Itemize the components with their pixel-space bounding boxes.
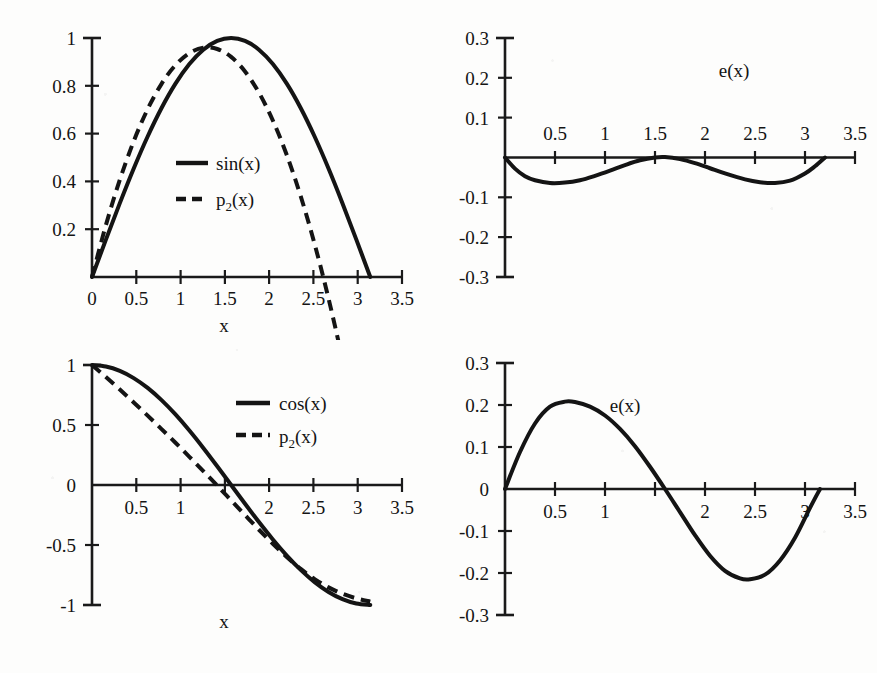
x-tick-label-2: 2 (264, 497, 274, 518)
y-tick-label-0.3: 0.3 (465, 28, 489, 49)
chart-cos-approx: 1 0.5 0 -0.5 -1 0.5 1 2 2.5 3 3.5 x (0, 333, 440, 673)
x-tick-label-3: 3 (353, 288, 363, 309)
panel-bottom-left: 1 0.5 0 -0.5 -1 0.5 1 2 2.5 3 3.5 x (0, 333, 440, 673)
curve-error (505, 157, 825, 183)
x-tick-label-3: 3 (353, 497, 363, 518)
chart-sin-approx: 1 0.8 0.6 0.4 0.2 0 0.5 1 1.5 2 2.5 3 3.… (0, 0, 440, 340)
error-curve-label: e(x) (719, 60, 750, 82)
x-tick-label-2: 2 (264, 288, 274, 309)
y-tick-label--0.1: -0.1 (459, 187, 489, 208)
x-tick-label-0.5: 0.5 (543, 123, 567, 144)
y-tick-label-0.2: 0.2 (52, 219, 76, 240)
y-tick-label--0.2: -0.2 (459, 227, 489, 248)
legend-p2-tail: (x) (232, 189, 254, 211)
y-tick-label-0: 0 (480, 479, 490, 500)
x-tick-label-1: 1 (600, 123, 610, 144)
x-tick-label-3.5: 3.5 (390, 497, 414, 518)
y-tick-label-0.1: 0.1 (465, 437, 489, 458)
legend-label-cos: cos(x) (279, 393, 326, 415)
x-tick-label-3: 3 (800, 123, 810, 144)
error-curve-label: e(x) (610, 395, 641, 417)
curve-error (505, 401, 820, 579)
panel-bottom-right: 0.3 0.2 0.1 0 -0.1 -0.2 -0.3 0.5 1 2 2.5… (437, 333, 877, 673)
y-tick-label-0: 0 (67, 475, 77, 496)
y-tick-label-0.3: 0.3 (465, 353, 489, 374)
y-tick-label-0.2: 0.2 (465, 68, 489, 89)
legend-p2-tail: (x) (295, 426, 317, 448)
legend-p2-base: p (216, 189, 226, 210)
x-axis-label: x (219, 611, 229, 632)
y-tick-label--0.2: -0.2 (459, 563, 489, 584)
y-tick-label--0.1: -0.1 (459, 521, 489, 542)
x-tick-label-0.5: 0.5 (124, 288, 148, 309)
legend-label-p2: p2(x) (216, 189, 254, 214)
y-tick-label--0.3: -0.3 (459, 605, 489, 626)
y-tick-label-0.1: 0.1 (465, 108, 489, 129)
y-tick-label-1: 1 (67, 355, 77, 376)
chart-sin-error: 0.3 0.2 0.1 -0.1 -0.2 -0.3 0.5 1 1.5 2 2… (437, 0, 877, 340)
x-tick-label-2: 2 (700, 123, 710, 144)
x-tick-label-2: 2 (700, 501, 710, 522)
y-tick-label-0.4: 0.4 (52, 171, 76, 192)
x-tick-label-1: 1 (176, 497, 186, 518)
panel-top-right: 0.3 0.2 0.1 -0.1 -0.2 -0.3 0.5 1 1.5 2 2… (437, 0, 877, 340)
x-tick-label-3.5: 3.5 (843, 123, 867, 144)
x-tick-label-2.5: 2.5 (743, 501, 767, 522)
x-tick-label-1: 1 (600, 501, 610, 522)
x-tick-label-0.5: 0.5 (124, 497, 148, 518)
x-tick-label-2.5: 2.5 (302, 288, 326, 309)
y-tick-label--0.3: -0.3 (459, 267, 489, 288)
x-tick-label-2.5: 2.5 (743, 123, 767, 144)
y-tick-label--1: -1 (60, 595, 76, 616)
x-tick-label-3.5: 3.5 (390, 288, 414, 309)
x-tick-label-1.5: 1.5 (213, 288, 237, 309)
y-tick-label-1: 1 (67, 28, 77, 49)
x-tick-label-2.5: 2.5 (302, 497, 326, 518)
y-tick-label-0.2: 0.2 (465, 395, 489, 416)
x-tick-label-1: 1 (176, 288, 186, 309)
legend-p2-base: p (279, 426, 289, 447)
x-tick-label-3.5: 3.5 (843, 501, 867, 522)
x-tick-label-1.5: 1.5 (643, 123, 667, 144)
panel-top-left: 1 0.8 0.6 0.4 0.2 0 0.5 1 1.5 2 2.5 3 3.… (0, 0, 440, 340)
figure-page: 1 0.8 0.6 0.4 0.2 0 0.5 1 1.5 2 2.5 3 3.… (0, 0, 877, 673)
x-tick-label-0: 0 (87, 288, 97, 309)
legend-label-sin: sin(x) (216, 153, 260, 175)
y-tick-label--0.5: -0.5 (46, 535, 76, 556)
y-tick-label-0.5: 0.5 (52, 415, 76, 436)
legend-label-p2: p2(x) (279, 426, 317, 451)
y-tick-label-0.8: 0.8 (52, 76, 76, 97)
chart-cos-error: 0.3 0.2 0.1 0 -0.1 -0.2 -0.3 0.5 1 2 2.5… (437, 333, 877, 673)
y-tick-label-0.6: 0.6 (52, 123, 76, 144)
x-tick-label-0.5: 0.5 (543, 501, 567, 522)
